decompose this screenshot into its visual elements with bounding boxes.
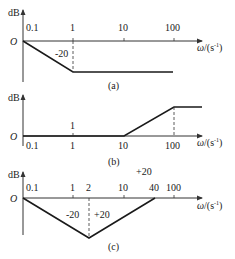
tick-label: 100 bbox=[165, 22, 180, 33]
xlabel: ω/(s-1) bbox=[197, 137, 222, 149]
tick-label: 0.1 bbox=[26, 182, 39, 193]
tick-label: 1 bbox=[70, 22, 75, 33]
slope-label-top: +20 bbox=[136, 166, 152, 177]
tick-label: 10 bbox=[118, 182, 128, 193]
origin-label: O bbox=[10, 131, 17, 142]
chart-c: dB O +20 0.1 1 2 10 40 100 ω/(s-1) -20 +… bbox=[8, 166, 222, 253]
ylabel: dB bbox=[8, 7, 20, 18]
xlabel: ω/(s-1) bbox=[197, 200, 222, 212]
bode-diagrams: dB O 0.1 1 10 100 ω/(s-1) -20 (a) dB O 1… bbox=[0, 0, 235, 259]
mark-label: 1 bbox=[70, 120, 75, 131]
caption-b: (b) bbox=[108, 156, 120, 168]
tick-label: 0.1 bbox=[26, 140, 39, 151]
origin-label: O bbox=[10, 193, 17, 204]
caption-c: (c) bbox=[108, 241, 119, 253]
slope-label: -20 bbox=[55, 48, 68, 59]
caption-a: (a) bbox=[108, 80, 119, 92]
tick-label: 1 bbox=[70, 140, 75, 151]
tick-label: 10 bbox=[118, 140, 128, 151]
ylabel: dB bbox=[8, 92, 20, 103]
tick-label: 0.1 bbox=[26, 22, 39, 33]
chart-a: dB O 0.1 1 10 100 ω/(s-1) -20 (a) bbox=[8, 7, 222, 92]
xlabel: ω/(s-1) bbox=[197, 42, 222, 54]
magnitude-curve bbox=[23, 107, 202, 136]
slope-label-up: +20 bbox=[94, 209, 110, 220]
slope-label-down: -20 bbox=[66, 209, 79, 220]
chart-b: dB O 1 0.1 1 10 100 ω/(s-1) (b) bbox=[8, 92, 222, 168]
ylabel: dB bbox=[8, 169, 20, 180]
tick-label: 10 bbox=[118, 22, 128, 33]
tick-label: 100 bbox=[166, 182, 181, 193]
tick-label: 100 bbox=[165, 140, 180, 151]
origin-label: O bbox=[10, 36, 17, 47]
tick-label: 1 bbox=[70, 182, 75, 193]
tick-label: 2 bbox=[86, 182, 91, 193]
tick-label: 40 bbox=[149, 182, 159, 193]
magnitude-curve bbox=[23, 41, 173, 72]
